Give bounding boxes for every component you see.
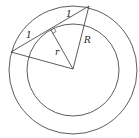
label-inner-radius: r [55, 47, 60, 57]
label-left-one: 1 [26, 30, 32, 40]
tangent-chord [11, 6, 89, 52]
segment-to-left-endpoint [11, 52, 73, 69]
label-right-one: 1 [66, 9, 72, 19]
outer-circle [9, 6, 137, 134]
label-outer-radius: R [83, 35, 91, 45]
concentric-circles-diagram: 1 1 r R [0, 0, 139, 138]
inner-circle [27, 24, 119, 116]
